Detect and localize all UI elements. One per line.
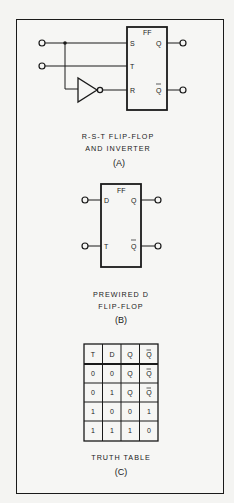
table-header-cell: Q [127, 351, 133, 359]
table-cell: 1 [147, 408, 151, 415]
table-cell: Q [127, 370, 133, 378]
table-cell: Q [127, 389, 133, 397]
inverter-bubble [97, 87, 102, 92]
table-header-cell: Q [146, 351, 152, 359]
table-cell: Q [146, 370, 152, 378]
caption-c-line1: TRUTH TABLE [91, 453, 150, 462]
table-cell: 0 [110, 370, 114, 377]
table-cell: 0 [91, 389, 95, 396]
caption-b-line1: PREWIRED D [93, 290, 149, 299]
pin-s: S [130, 40, 135, 47]
caption-c-id: (C) [115, 467, 128, 477]
table-cell: 0 [128, 408, 132, 415]
pin-q: Q [131, 197, 137, 205]
input-terminal-s [39, 40, 45, 46]
caption-a-id: (A) [113, 158, 125, 168]
output-terminal-q [180, 40, 186, 46]
output-terminal-qbar [180, 87, 186, 93]
table-cell: 1 [110, 389, 114, 396]
panel-b-d-flipflop [82, 184, 161, 267]
output-terminal-q [155, 197, 161, 203]
pin-t: T [130, 63, 135, 70]
panel-a-rst-flipflop [39, 27, 186, 110]
pin-d: D [104, 197, 109, 204]
caption-a-line2: AND INVERTER [85, 144, 150, 153]
pin-t: T [104, 243, 109, 250]
caption-b-id: (B) [115, 315, 127, 325]
ff-label-b: FF [117, 187, 126, 194]
input-terminal-d [82, 197, 88, 203]
pin-q: Q [156, 40, 162, 48]
input-terminal-t [39, 63, 45, 69]
table-cell: 1 [91, 427, 95, 434]
table-cell: 0 [91, 370, 95, 377]
caption-b-line2: FLIP-FLOP [98, 302, 143, 311]
table-cell: 1 [110, 427, 114, 434]
table-header-cell: T [91, 351, 96, 358]
pin-r: R [130, 87, 135, 94]
table-cell: 1 [91, 408, 95, 415]
pin-qbar: Q [131, 243, 137, 251]
pin-qbar: Q [156, 87, 162, 95]
output-terminal-qbar [155, 243, 161, 249]
table-header-cell: D [109, 351, 114, 358]
table-cell: Q [146, 389, 152, 397]
inverter-gate [78, 78, 97, 102]
table-cell: 1 [128, 427, 132, 434]
ff-label-a: FF [143, 29, 152, 36]
input-terminal-t [82, 243, 88, 249]
table-cell: 0 [110, 408, 114, 415]
caption-a-line1: R-S-T FLIP-FLOP [82, 132, 154, 141]
table-cell: 0 [147, 427, 151, 434]
